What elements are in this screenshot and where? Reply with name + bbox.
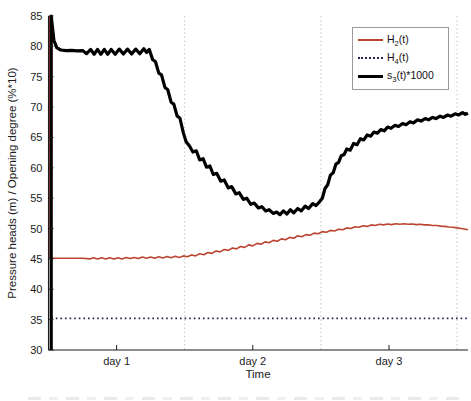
y-tick-label: 65 [30, 131, 42, 143]
legend-entry-h2: H2(t) [358, 33, 443, 48]
x-tick-label: day 2 [239, 355, 266, 367]
y-tick-label: 40 [30, 283, 42, 295]
y-tick-label: 45 [30, 253, 42, 265]
y-tick-label: 50 [30, 223, 42, 235]
x-axis-label: Time [48, 368, 468, 380]
matlab-figure: 303540455055606570758085day 1day 2day 3 … [0, 0, 471, 401]
y-tick-label: 80 [30, 40, 42, 52]
legend-entry-s3: s3(t)*1000 [358, 69, 443, 84]
legend-label-h4: H4(t) [387, 51, 409, 66]
legend-label-s3: s3(t)*1000 [387, 69, 434, 84]
y-axis-label: Pressure heads (m) / Opening degree (%*1… [6, 67, 18, 298]
y-tick-label: 55 [30, 192, 42, 204]
s3-line-sample-icon [358, 75, 383, 78]
legend-entry-h4: H4(t) [358, 51, 443, 66]
y-tick-label: 70 [30, 101, 42, 113]
x-tick-label: day 1 [103, 355, 130, 367]
legend-label-h2: H2(t) [387, 33, 409, 48]
y-tick-label: 35 [30, 314, 42, 326]
y-tick-label: 75 [30, 71, 42, 83]
h2-line-sample-icon [358, 39, 383, 41]
cropped-caption-remnant [28, 397, 463, 400]
y-tick-label: 30 [30, 344, 42, 356]
legend-box: H2(t) H4(t) s3(t)*1000 [352, 27, 449, 90]
x-tick-label: day 3 [376, 355, 403, 367]
y-tick-label: 85 [30, 10, 42, 22]
h4-dotted-line-sample-icon [358, 57, 383, 59]
y-tick-label: 60 [30, 162, 42, 174]
